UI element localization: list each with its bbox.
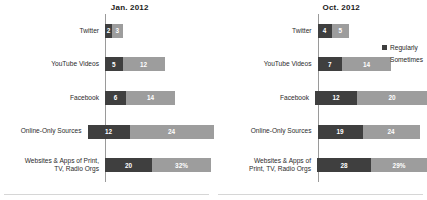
legend-swatch-icon xyxy=(382,57,387,62)
legend-item-regularly: Regularly xyxy=(382,44,423,51)
bar-segment-sometimes: 29% xyxy=(371,158,427,172)
bar-segment-regularly: 20 xyxy=(105,158,152,172)
panel-title-right: Oct. 2012 xyxy=(214,3,427,12)
bar-segment-regularly: 28 xyxy=(317,158,371,172)
table-row: Twitter 4 5 xyxy=(214,22,427,39)
table-row: YouTube Videos 5 12 xyxy=(0,56,214,73)
bar-segment-sometimes: 3 xyxy=(112,24,123,38)
legend-label: Regularly xyxy=(390,44,418,51)
footer-divider-right xyxy=(218,194,423,195)
chart-legend: Regularly Sometimes xyxy=(382,44,423,63)
legend-item-sometimes: Sometimes xyxy=(382,56,423,63)
stacked-bar: 4 5 xyxy=(318,24,350,38)
stacked-bar: 7 14 xyxy=(318,57,392,71)
stacked-bar: 20 32% xyxy=(105,158,211,172)
bar-rows-left: Twitter 2 3 YouTube Videos 5 12 Facebook xyxy=(0,14,214,182)
bar-segment-regularly: 2 xyxy=(105,24,112,38)
legend-swatch-icon xyxy=(382,45,387,50)
category-label: Twitter xyxy=(0,27,105,35)
table-row: Websites & Apps of Print, TV, Radio Orgs… xyxy=(0,157,214,174)
legend-label: Sometimes xyxy=(390,56,423,63)
stacked-bar: 2 3 xyxy=(105,24,123,38)
plot-area-right: Twitter 4 5 YouTube Videos 7 14 Facebook xyxy=(214,14,427,182)
category-label: Websites & Apps of Print, TV, Radio Orgs xyxy=(214,157,318,174)
bar-segment-sometimes: 24 xyxy=(130,125,214,139)
bar-segment-sometimes: 5 xyxy=(332,24,350,38)
stacked-bar: 5 12 xyxy=(105,57,165,71)
stacked-bar: 6 14 xyxy=(105,91,175,105)
table-row: Facebook 12 20 xyxy=(214,89,427,106)
stacked-bar: 12 24 xyxy=(88,125,214,139)
stacked-bar: 12 20 xyxy=(315,91,427,105)
bar-segment-regularly: 5 xyxy=(105,57,123,71)
chart-panel-oct-2012: Oct. 2012 Twitter 4 5 YouTube Videos 7 1… xyxy=(214,0,427,200)
table-row: Online-Only Sources 12 24 xyxy=(0,123,214,140)
bar-segment-regularly: 7 xyxy=(318,57,343,71)
bar-segment-sometimes: 32% xyxy=(152,158,211,172)
bar-segment-sometimes: 20 xyxy=(357,91,427,105)
category-label: Twitter xyxy=(214,27,318,35)
category-label: Websites & Apps of Print, TV, Radio Orgs xyxy=(0,157,105,174)
chart-panel-jan-2012: Jan. 2012 Twitter 2 3 YouTube Videos 5 1… xyxy=(0,0,214,200)
footer-divider-left xyxy=(4,194,209,195)
table-row: Twitter 2 3 xyxy=(0,22,214,39)
paired-stacked-bar-chart: Jan. 2012 Twitter 2 3 YouTube Videos 5 1… xyxy=(0,0,427,200)
category-label: YouTube Videos xyxy=(0,60,105,68)
bar-rows-right: Twitter 4 5 YouTube Videos 7 14 Facebook xyxy=(214,14,427,182)
bar-segment-sometimes: 14 xyxy=(126,91,175,105)
bar-segment-regularly: 19 xyxy=(318,125,363,139)
bar-segment-regularly: 12 xyxy=(88,125,130,139)
bar-segment-sometimes: 24 xyxy=(363,125,420,139)
table-row: Websites & Apps of Print, TV, Radio Orgs… xyxy=(214,157,427,174)
bar-segment-sometimes: 12 xyxy=(123,57,165,71)
bar-segment-regularly: 4 xyxy=(318,24,332,38)
stacked-bar: 19 24 xyxy=(318,125,420,139)
category-label: Facebook xyxy=(214,94,316,102)
bar-segment-regularly: 6 xyxy=(105,91,126,105)
category-label: Facebook xyxy=(0,94,105,102)
category-label: Online-Only Sources xyxy=(214,127,318,135)
bar-segment-regularly: 12 xyxy=(315,91,357,105)
category-label: Online-Only Sources xyxy=(0,127,88,135)
stacked-bar: 28 29% xyxy=(317,158,427,172)
panel-title-left: Jan. 2012 xyxy=(0,3,214,12)
plot-area-left: Twitter 2 3 YouTube Videos 5 12 Facebook xyxy=(0,14,214,182)
table-row: Facebook 6 14 xyxy=(0,89,214,106)
table-row: Online-Only Sources 19 24 xyxy=(214,123,427,140)
category-label: YouTube Videos xyxy=(214,60,318,68)
